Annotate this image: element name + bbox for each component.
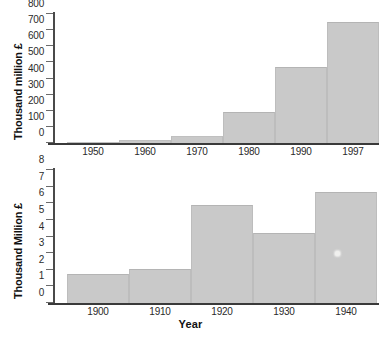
x-tick-label-top-1970: 1970 [186,146,207,157]
x-tick-label-top-1950: 1950 [82,146,103,157]
y-tick-label-bottom-0: 0 [39,288,44,298]
x-tick-label-top-1990: 1990 [290,146,311,157]
bar-top-1960 [119,140,171,143]
y-tick-label-top-7: 700 [28,15,44,25]
plot-area-top: 0 100 200 300 400 500 600 700 800 1950 1… [54,14,379,143]
y-tick-top-8 [46,13,53,14]
y-tick-label-bottom-7: 7 [39,172,44,182]
x-tick-label-top-1980: 1980 [238,146,259,157]
y-tick-label-bottom-1: 1 [39,271,44,281]
x-tick-label-top-1960: 1960 [134,146,155,157]
y-tick-label-bottom-4: 4 [39,222,44,232]
y-tick-bottom-2 [46,269,53,270]
bar-top-1997 [327,22,379,143]
x-tick-label-bottom-1930: 1930 [273,306,294,317]
bar-bottom-1940 [315,192,377,303]
x-tick-label-bottom-1900: 1900 [87,306,108,317]
y-tick-label-top-8: 800 [28,0,44,9]
figure: Thousand million £ 0 100 200 300 400 500… [0,0,381,337]
y-tick-label-top-3: 300 [28,80,44,90]
y-tick-top-0 [46,142,53,143]
y-tick-bottom-7 [46,186,53,187]
y-tick-top-7 [46,29,53,30]
y-tick-bottom-3 [46,252,53,253]
bar-bottom-1910 [129,269,191,303]
x-tick-label-bottom-1920: 1920 [211,306,232,317]
y-tick-label-bottom-6: 6 [39,188,44,198]
y-tick-top-1 [46,126,53,127]
y-tick-label-bottom-8: 8 [39,155,44,165]
y-tick-label-top-6: 600 [28,31,44,41]
bar-top-1970 [171,136,223,143]
y-axis-label-top: Thousand million £ [12,43,24,140]
chart-bottom: Thousand Million £ 0 1 2 3 4 5 6 7 8 [0,165,381,337]
chart-top: Thousand million £ 0 100 200 300 400 500… [0,0,381,168]
y-axis-line-bottom [53,168,55,304]
y-tick-bottom-4 [46,236,53,237]
y-tick-top-4 [46,78,53,79]
y-tick-label-top-0: 0 [39,128,44,138]
y-tick-label-top-2: 200 [28,96,44,106]
y-tick-bottom-1 [46,285,53,286]
bar-top-1980 [223,112,275,143]
bar-top-1950 [67,142,119,143]
y-tick-top-5 [46,61,53,62]
y-tick-top-6 [46,45,53,46]
x-tick-label-bottom-1940: 1940 [335,306,356,317]
y-tick-top-2 [46,110,53,111]
x-tick-label-bottom-1910: 1910 [149,306,170,317]
plot-area-bottom: 0 1 2 3 4 5 6 7 8 1900 1910 1920 1930 19… [54,170,379,303]
y-tick-bottom-5 [46,219,53,220]
image-artifact-speck [335,251,340,256]
x-axis-line-top [48,143,379,145]
bar-bottom-1920 [191,205,253,303]
y-axis-line-top [53,12,55,144]
y-tick-label-bottom-3: 3 [39,238,44,248]
x-axis-line-bottom [48,303,379,305]
y-tick-bottom-0 [46,302,53,303]
bar-top-1990 [275,67,327,143]
y-tick-bottom-6 [46,202,53,203]
y-tick-top-3 [46,94,53,95]
y-tick-label-top-1: 100 [28,112,44,122]
x-axis-label-bottom: Year [0,318,381,330]
y-tick-label-bottom-2: 2 [39,255,44,265]
y-tick-label-top-4: 400 [28,64,44,74]
y-axis-label-bottom: Thousand Million £ [12,203,24,299]
bar-bottom-1930 [253,233,315,303]
y-tick-bottom-8 [46,169,53,170]
x-tick-label-top-1997: 1997 [342,146,363,157]
bar-bottom-1900 [67,274,129,303]
y-tick-label-top-5: 500 [28,47,44,57]
y-tick-label-bottom-5: 5 [39,205,44,215]
